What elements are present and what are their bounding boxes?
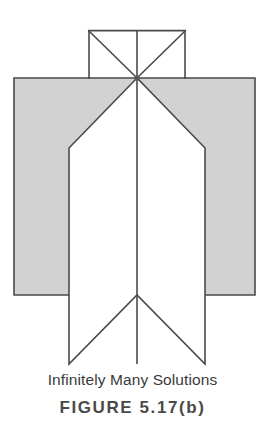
upper-right-to-center-diagonal [137,30,186,78]
intersection-node-marker [134,75,139,80]
figure-number-label: FIGURE 5.17(b) [0,395,265,421]
caption-block: Infinitely Many Solutions FIGURE 5.17(b) [0,370,265,421]
upper-left-to-center-diagonal [88,30,137,78]
figure-container: Infinitely Many Solutions FIGURE 5.17(b) [0,0,265,437]
figure-caption: Infinitely Many Solutions [0,370,265,390]
